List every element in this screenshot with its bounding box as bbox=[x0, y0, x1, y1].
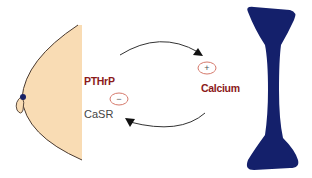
negative-sign: − bbox=[109, 93, 129, 106]
pthrp-label: PTHrP bbox=[84, 75, 115, 87]
bone-shape bbox=[247, 7, 298, 170]
breast-shape bbox=[16, 25, 82, 160]
arrow-to-bone bbox=[120, 42, 203, 56]
positive-sign: + bbox=[197, 62, 217, 75]
arrow-to-breast bbox=[125, 113, 205, 127]
casr-label: CaSR bbox=[84, 108, 113, 120]
diagram-canvas bbox=[0, 0, 312, 178]
nipple-dot bbox=[20, 94, 26, 100]
calcium-label: Calcium bbox=[201, 82, 240, 94]
